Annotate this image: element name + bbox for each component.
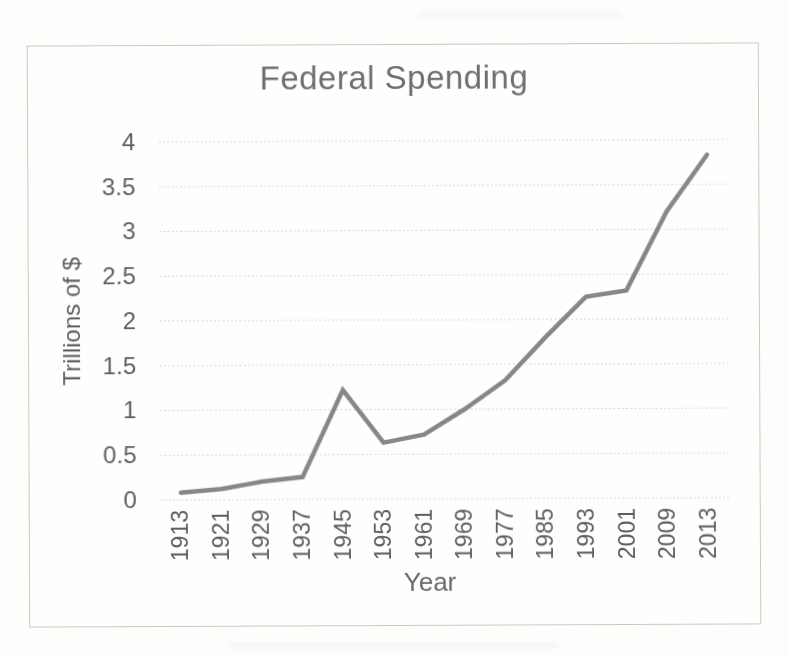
x-tick-label: 1929	[248, 510, 274, 561]
y-tick-label: 4	[122, 128, 135, 155]
gridline	[160, 363, 728, 365]
x-tick-label: 1945	[329, 509, 355, 560]
x-tick-label: 1953	[370, 509, 396, 560]
x-tick-label: 2001	[613, 508, 639, 559]
y-tick-label: 1.5	[103, 352, 136, 379]
y-tick-label: 0	[123, 486, 136, 513]
gridline	[160, 319, 728, 321]
gridline	[161, 498, 729, 500]
gridline	[160, 408, 728, 410]
y-tick-label: 1	[123, 397, 136, 424]
y-tick-label: 2	[123, 307, 136, 334]
gridline	[159, 140, 727, 142]
y-tick-label: 0.5	[103, 441, 136, 468]
x-tick-label: 1937	[289, 509, 315, 560]
y-tick-label: 3	[122, 218, 135, 245]
gridline	[161, 453, 729, 455]
x-tick-label: 1993	[573, 508, 599, 559]
x-tick-label: 1961	[410, 509, 436, 560]
scan-artifact	[230, 642, 560, 648]
x-axis-title: Year	[330, 566, 530, 598]
scanned-page: Federal Spending Trillions of $ 00.511.5…	[0, 0, 787, 658]
y-tick-label: 2.5	[102, 262, 135, 289]
x-tick-label: 1985	[532, 508, 558, 559]
x-tick-label: 1977	[492, 508, 518, 559]
gridline	[159, 184, 727, 186]
scan-artifact	[420, 12, 620, 18]
x-tick-label: 1969	[451, 509, 477, 560]
line-chart-plot: 00.511.522.533.5419131921192919371945195…	[28, 43, 763, 628]
x-tick-label: 2013	[694, 508, 720, 559]
x-tick-label: 1913	[167, 510, 193, 561]
chart-frame: Federal Spending Trillions of $ 00.511.5…	[27, 42, 762, 627]
x-tick-label: 2009	[654, 508, 680, 559]
gridline	[160, 229, 728, 231]
gridline	[160, 274, 728, 276]
spending-line	[180, 155, 709, 493]
y-tick-label: 3.5	[102, 173, 135, 200]
x-tick-label: 1921	[208, 510, 234, 561]
